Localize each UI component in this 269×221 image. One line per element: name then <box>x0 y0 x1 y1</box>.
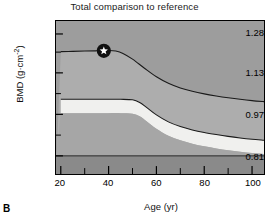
patient-marker-layer <box>97 44 111 58</box>
x-tick-label-60: 60 <box>136 178 176 188</box>
y-axis-title-main: BMD (g·cm <box>14 55 25 103</box>
panel-letter: B <box>3 203 10 214</box>
band-layer <box>56 21 264 174</box>
band-osteoporosis-zone <box>56 156 264 174</box>
x-tick-label-100: 100 <box>233 178 269 188</box>
y-axis-title-exponent: -2 <box>13 49 20 55</box>
chart-title: Total comparison to reference <box>0 1 269 13</box>
plot-svg <box>56 21 264 174</box>
x-axis-title: Age (yr) <box>55 201 267 212</box>
plot-area <box>55 20 265 175</box>
figure-panel-b: Total comparison to reference 0.810.971.… <box>0 0 269 221</box>
y-axis-title: BMD (g·cm-2) <box>11 9 25 139</box>
x-tick-label-80: 80 <box>185 178 225 188</box>
x-tick-label-40: 40 <box>88 178 128 188</box>
y-axis-title-tail: ) <box>14 45 25 48</box>
x-tick-label-20: 20 <box>40 178 80 188</box>
